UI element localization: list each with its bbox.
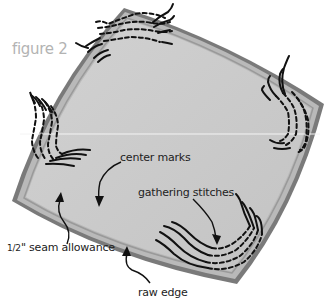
seam-allowance-fraction: 1/2 (7, 243, 21, 253)
label-seam-allowance: 1/2" seam allowance (7, 242, 115, 253)
diagram-canvas: figure 2 center marks gathering stitches… (0, 0, 331, 298)
seam-allowance-text: seam allowance (26, 241, 115, 254)
label-gathering-stitches: gathering stitches (138, 187, 234, 198)
label-raw-edge: raw edge (138, 287, 188, 298)
label-center-marks: center marks (120, 152, 191, 163)
figure-title: figure 2 (12, 42, 67, 57)
